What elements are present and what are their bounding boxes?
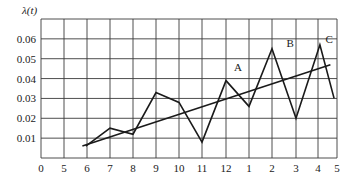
x-axis-tick-labels: 05678910111212345 <box>38 162 340 174</box>
annotation-b: B <box>286 37 293 49</box>
x-tick-label: 2 <box>269 162 275 174</box>
annotation-c: C <box>326 33 333 45</box>
annotation-a: A <box>234 61 242 73</box>
series-observed-line <box>86 45 334 146</box>
x-tick-label: 0 <box>38 162 44 174</box>
y-tick-label: 0.05 <box>17 53 37 65</box>
y-tick-label: 0.03 <box>17 92 37 104</box>
x-tick-label: 9 <box>153 162 159 174</box>
x-tick-label: 6 <box>84 162 90 174</box>
x-tick-label: 4 <box>315 162 321 174</box>
x-tick-label: 5 <box>61 162 67 174</box>
x-tick-label: 10 <box>174 162 186 174</box>
x-tick-label: 1 <box>246 162 252 174</box>
y-tick-label: 0.01 <box>17 132 36 144</box>
y-axis-label: λ(t) <box>21 4 37 17</box>
x-tick-label: 3 <box>293 162 299 174</box>
x-tick-label: 11 <box>197 162 208 174</box>
y-axis-tick-labels: 0.010.020.030.040.050.06 <box>17 33 37 144</box>
y-tick-label: 0.04 <box>17 73 37 85</box>
y-tick-label: 0.06 <box>17 33 37 45</box>
x-tick-label: 5 <box>334 162 340 174</box>
series-trend-line <box>82 65 330 146</box>
x-tick-label: 8 <box>130 162 136 174</box>
x-tick-label: 7 <box>107 162 113 174</box>
y-tick-label: 0.02 <box>17 112 36 124</box>
chart: 0.010.020.030.040.050.06 056789101112123… <box>0 0 356 186</box>
x-tick-label: 12 <box>221 162 232 174</box>
